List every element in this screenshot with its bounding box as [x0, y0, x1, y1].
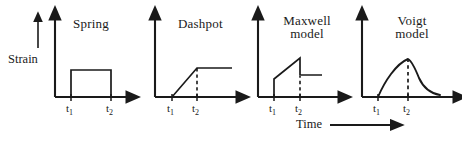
tick-label-spring-t2: t2	[106, 102, 113, 114]
panel-title-voigt: Voigt model	[382, 14, 442, 40]
tick-sub: 1	[272, 108, 276, 117]
tick-label-maxwell-t1: t1	[269, 102, 276, 114]
tick-label-dashpot-t1: t1	[167, 102, 174, 114]
tick-sub: 2	[298, 108, 302, 117]
panel-title-maxwell: Maxwell model	[272, 14, 342, 40]
tick-label-dashpot-t2: t2	[192, 102, 199, 114]
voigt-curve	[378, 59, 440, 97]
x-axis-label: Time	[296, 117, 322, 132]
dashpot-curve	[155, 68, 232, 97]
y-axis-label: Strain	[8, 52, 38, 67]
viscoelastic-strain-time-figure: Strain Time Spring Dashpot Maxwell model…	[0, 0, 462, 141]
panel-title-spring: Spring	[73, 16, 109, 32]
panel-title-dashpot: Dashpot	[178, 16, 223, 32]
tick-sub: 1	[69, 108, 73, 117]
tick-sub: 2	[109, 108, 113, 117]
tick-sub: 1	[376, 108, 380, 117]
tick-sub: 1	[170, 108, 174, 117]
tick-label-voigt-t2: t2	[403, 102, 410, 114]
tick-label-spring-t1: t1	[66, 102, 73, 114]
tick-label-voigt-t1: t1	[373, 102, 380, 114]
tick-sub: 2	[195, 108, 199, 117]
tick-label-maxwell-t2: t2	[295, 102, 302, 114]
panel-title-voigt-line2: model	[382, 27, 442, 40]
maxwell-curve	[258, 58, 322, 97]
panel-title-maxwell-line2: model	[272, 27, 342, 40]
spring-curve	[55, 70, 120, 97]
tick-sub: 2	[406, 108, 410, 117]
